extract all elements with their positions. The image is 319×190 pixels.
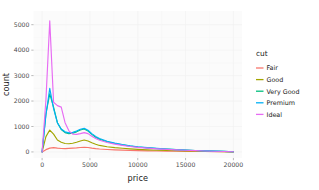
y-tick-label: 0: [26, 148, 30, 155]
legend-item-label: Fair: [267, 64, 279, 72]
legend-item-label: Premium: [267, 99, 295, 107]
y-tick-label: 3000: [14, 72, 30, 79]
x-tick-label: 0: [40, 161, 44, 168]
x-tick-label: 20000: [224, 161, 244, 168]
y-tick-label: 4000: [14, 46, 30, 53]
legend-item-label: Ideal: [267, 111, 283, 119]
x-tick-label: 15000: [176, 161, 196, 168]
y-tick-label: 2000: [14, 97, 30, 104]
frequency-polygon-chart: 05000100001500020000 0100020003000400050…: [0, 0, 319, 190]
legend-item-label: Good: [267, 76, 284, 84]
x-tick-label: 10000: [128, 161, 148, 168]
x-tick-label: 5000: [82, 161, 98, 168]
legend-title: cut: [256, 49, 268, 58]
chart-figure: 05000100001500020000 0100020003000400050…: [0, 0, 319, 190]
y-tick-label: 5000: [14, 21, 30, 28]
legend-item-label: Very Good: [267, 88, 300, 96]
x-axis-title: price: [128, 173, 148, 183]
y-tick-label: 1000: [14, 123, 30, 130]
y-axis-title: count: [1, 72, 11, 96]
